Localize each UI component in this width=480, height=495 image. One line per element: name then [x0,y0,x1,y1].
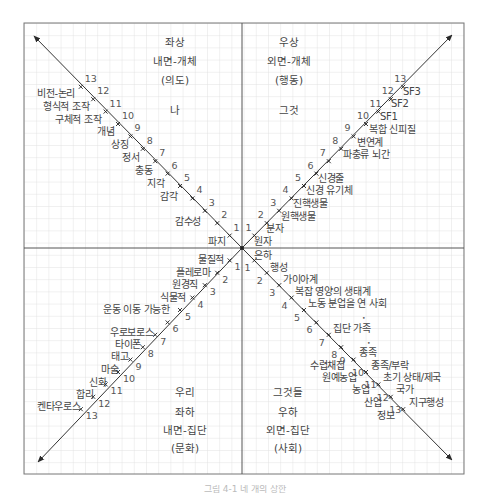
lr-tick-number-6: 6 [306,325,312,335]
ur-tick-number-11: 11 [369,99,381,109]
lr-position: 우하 [243,406,333,418]
ur-tick-number-2: 2 [258,210,264,220]
ur-label-1: 분자 [266,223,283,234]
lr-label-8: 종족 [359,347,376,358]
ll-label-6: 우로보로스 [110,327,154,338]
lr-label-6: 집단 가족 [333,323,371,334]
lr-tick-number-4: 4 [282,301,288,311]
ll-label-3: 원경직 [172,279,198,290]
ur-tick-number-9: 9 [345,123,351,133]
ul-tick-number-3: 3 [209,198,215,208]
ur-tick-number-1: 1 [245,223,251,233]
ll-tick-number-10: 10 [123,374,135,384]
lr-tick-number-9: 9 [340,356,346,366]
ur-label-3: 진핵생물 [293,198,328,209]
ul-tick-number-11: 11 [110,99,122,109]
origin-label-galaxy: 은하 [254,250,271,261]
lr-tick-number-12: 12 [377,393,389,403]
ul-aspect: (의도) [130,74,220,86]
ur-tick-number-4: 4 [283,185,289,195]
ul-tick-number-12: 12 [97,86,109,96]
lr-label-1: 행성 [270,262,287,273]
ul-label-5: 지각 [147,178,164,189]
ll-label-9: 마술 [101,364,118,375]
ll-tick-number-9: 9 [135,362,141,372]
ll-label-4: 식물적 [160,292,186,303]
ll-tick-number-1: 1 [235,262,241,272]
lr-tick-number-7: 7 [319,338,325,348]
ur-tick-number-12: 12 [382,86,394,96]
quadrant-lower-left-title: 우리 좌하 내면-집단 (문화) [140,386,230,454]
ur-pronoun: 그것 [244,104,334,116]
origin-point [240,246,244,250]
ll-label-5: 운동 이동 가능한 [103,304,170,315]
lr-label-9: 종족/부락 [371,360,409,371]
ll-aspect: (문화) [140,442,230,454]
ul-tick-number-10: 10 [122,111,134,121]
ul-label-9: 개념 [97,126,114,137]
ll-tick-number-2: 2 [222,275,228,285]
lr-tick-number-13: 13 [389,405,401,415]
ul-label-6: 충동 [135,165,152,176]
dot-marker: • [367,338,371,348]
lr-aspect: (사회) [243,442,333,454]
ur-position: 우상 [244,36,334,48]
ll-label-7: 타이폰 [115,339,141,350]
ll-tick-number-11: 11 [111,386,123,396]
ur-label-10: SF1 [380,111,398,122]
lr-tick-number-11: 11 [364,380,376,390]
ll-label-10: 신화 [89,377,106,388]
ll-domain: 내면-집단 [140,424,230,436]
ur-label-5: 신경줄 [318,173,344,184]
ur-tick-number-8: 8 [332,136,338,146]
ll-tick-number-13: 13 [86,411,98,421]
lr-label-11: 국가 [396,384,413,395]
ul-position: 좌상 [130,36,220,48]
lr-tick-number-1: 1 [244,263,250,273]
ll-tick-number-6: 6 [173,324,179,334]
lr-label-10: 초기 상태/제국 [383,372,441,383]
ur-domain: 외면-개체 [244,55,334,67]
lr-pronoun: 그것들 [243,386,333,398]
ur-tick-number-10: 10 [357,111,369,121]
ul-label-2: 감수성 [175,216,201,227]
lr-tick-number-8: 8 [331,350,337,360]
ur-label-11: SF2 [391,98,409,109]
quadrant-lower-right-title: 그것들 우하 외면-집단 (사회) [243,386,333,454]
ll-tick-number-12: 12 [98,399,110,409]
ll-pronoun: 우리 [140,386,230,398]
ll-label-8: 태고 [111,351,128,362]
ur-label-7: 파충류 뇌간 [343,149,389,160]
lr-tick-number-10: 10 [352,368,364,378]
ul-label-12: 비전-논리 [37,88,75,99]
diagram-canvas [0,0,480,495]
origin-label-atom: 원자 [254,236,271,247]
lr-domain: 외면-집단 [243,424,333,436]
ul-tick-number-7: 7 [159,148,165,158]
ur-tick-number-6: 6 [307,161,313,171]
ur-tick-number-13: 13 [394,74,406,84]
ur-tick-number-3: 3 [270,198,276,208]
ll-label-11: 합리 [76,389,93,400]
ul-label-7: 정서 [122,152,139,163]
ur-tick-number-5: 5 [295,173,301,183]
ul-tick-number-8: 8 [147,136,153,146]
ul-tick-number-13: 13 [85,74,97,84]
ll-position: 좌하 [140,406,230,418]
dot-marker: • [362,313,366,323]
ur-label-2: 원핵생물 [281,211,316,222]
ul-label-10: 구체적 조작 [55,114,101,125]
lr-tick-number-3: 3 [269,288,275,298]
ur-label-8: 변연계 [357,137,383,148]
ul-tick-number-1: 1 [234,223,240,233]
lr-tick-number-5: 5 [294,313,300,323]
quadrant-upper-right-title: 우상 외면-개체 (행동) 그것 [244,36,334,116]
lr-label-2: 가이아계 [283,274,318,285]
ll-label-1: 물질적 [198,254,224,265]
ll-label-12: 켄타우로스 [37,401,81,412]
ur-tick-number-7: 7 [320,148,326,158]
ll-tick-number-7: 7 [160,337,166,347]
ul-tick-number-4: 4 [196,185,202,195]
lr-label-4: 노동 분업을 연 사회 [308,298,386,309]
lr-tick-number-2: 2 [257,276,263,286]
